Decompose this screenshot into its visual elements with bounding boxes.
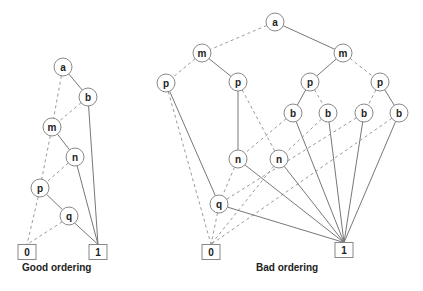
low-edge-n-p (47, 163, 69, 182)
node-n: n (270, 150, 288, 168)
svg-text:q: q (66, 211, 72, 222)
low-edge-m-p (42, 136, 51, 179)
high-edge-n2-t1 (284, 166, 344, 242)
node-n: n (229, 150, 247, 168)
svg-text:0: 0 (208, 247, 214, 258)
high-edge-p4-b4 (385, 90, 395, 106)
node-p: p (229, 73, 247, 91)
high-edge-q-t1 (75, 223, 98, 244)
node-q: q (210, 195, 228, 213)
high-edge-m1-p2 (209, 59, 231, 77)
low-edge-q-t0 (211, 213, 218, 245)
low-edge-p2-n2 (242, 90, 275, 151)
low-edge-b2-n2 (286, 119, 322, 153)
low-edge-m1-p1 (173, 59, 195, 77)
node-b: b (319, 104, 337, 122)
bad-ordering-caption: Bad ordering (256, 262, 318, 273)
node-n: n (66, 148, 84, 166)
node-p: p (371, 73, 389, 91)
low-edge-b1-n1 (245, 119, 286, 153)
low-edge-a-m1 (210, 26, 266, 50)
terminal-1: 1 (89, 245, 107, 260)
high-edge-m-n (57, 134, 69, 150)
node-p: p (301, 73, 319, 91)
svg-text:b: b (396, 108, 402, 119)
low-edge-p1-t0 (168, 92, 211, 245)
low-edge-q-t0 (27, 222, 62, 245)
node-b: b (284, 104, 302, 122)
svg-text:n: n (72, 152, 78, 163)
bdd-diagram-canvas: abmnpq01 ammppppbbbbnnq01 (0, 0, 423, 291)
terminal-0: 0 (18, 245, 36, 260)
node-q: q (60, 207, 78, 225)
node-p: p (157, 74, 175, 92)
svg-text:p: p (235, 77, 241, 88)
good-ordering-caption: Good ordering (22, 262, 91, 273)
high-edge-a-m2 (283, 26, 335, 50)
svg-text:n: n (235, 154, 241, 165)
node-a: a (54, 58, 72, 76)
node-m: m (193, 44, 211, 62)
svg-text:a: a (272, 17, 278, 28)
good-ordering-bdd: abmnpq01 (18, 58, 107, 260)
high-edge-a-b (69, 74, 82, 90)
svg-text:b: b (290, 108, 296, 119)
low-edge-a-m (54, 76, 62, 118)
bad-ordering-bdd: ammppppbbbbnnq01 (157, 13, 408, 260)
svg-text:0: 0 (24, 247, 30, 258)
svg-text:1: 1 (95, 247, 101, 258)
high-edge-b4-t1 (344, 121, 396, 242)
svg-text:p: p (377, 77, 383, 88)
terminal-1: 1 (335, 243, 353, 258)
svg-text:b: b (85, 92, 91, 103)
svg-text:a: a (60, 62, 66, 73)
node-b: b (355, 104, 373, 122)
svg-text:m: m (48, 122, 57, 133)
node-m: m (334, 44, 352, 62)
terminal-0: 0 (202, 245, 220, 260)
svg-text:m: m (339, 48, 348, 59)
low-edge-b-m (59, 103, 81, 121)
node-b: b (390, 104, 408, 122)
svg-text:n: n (276, 154, 282, 165)
svg-text:p: p (163, 78, 169, 89)
node-b: b (79, 88, 97, 106)
svg-text:p: p (307, 77, 313, 88)
svg-text:q: q (216, 199, 222, 210)
svg-text:1: 1 (341, 245, 347, 256)
high-edge-p3-b1 (297, 90, 305, 105)
svg-text:b: b (325, 108, 331, 119)
node-a: a (266, 13, 284, 31)
low-edge-p-t0 (27, 197, 38, 245)
low-edge-p4-b3 (368, 90, 376, 105)
low-edge-m2-p4 (350, 59, 373, 77)
high-edge-m2-p3 (317, 59, 336, 76)
svg-text:b: b (361, 108, 367, 119)
high-edge-q-t1 (227, 207, 344, 242)
node-m: m (43, 118, 61, 136)
low-edge-n1-q (223, 167, 235, 195)
high-edge-b-t1 (89, 106, 98, 245)
high-edge-p-q (46, 194, 62, 209)
low-edge-p3-b2 (315, 90, 324, 105)
svg-text:m: m (198, 48, 207, 59)
node-p: p (31, 179, 49, 197)
svg-text:p: p (37, 183, 43, 194)
